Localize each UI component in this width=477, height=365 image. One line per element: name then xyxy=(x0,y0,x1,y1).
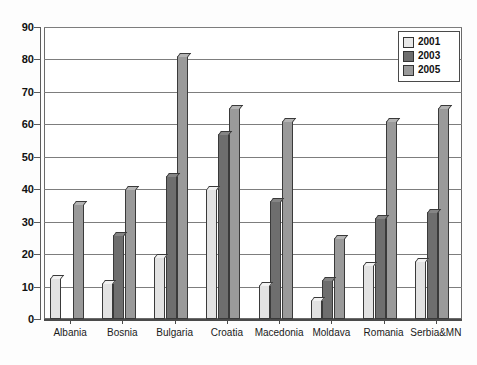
bar xyxy=(282,121,293,319)
y-axis-tick-label: 90 xyxy=(0,21,34,33)
bar xyxy=(415,261,426,319)
bar xyxy=(311,300,322,319)
y-axis-tick xyxy=(34,157,41,158)
bar xyxy=(229,108,240,319)
x-axis-tick-label: Romania xyxy=(358,328,410,338)
bar xyxy=(427,212,438,319)
x-axis-tick xyxy=(122,319,123,324)
legend-swatch-2005 xyxy=(403,65,414,76)
legend-item: 2005 xyxy=(403,63,455,77)
y-axis-tick-label: 0 xyxy=(0,313,34,325)
x-axis-tick xyxy=(436,319,437,324)
y-axis-tick-label: 50 xyxy=(0,151,34,163)
y-axis-tick xyxy=(34,27,41,28)
bar xyxy=(259,285,270,319)
bar xyxy=(363,265,374,319)
legend-item: 2001 xyxy=(403,35,455,49)
legend-label-2003: 2003 xyxy=(418,51,440,61)
x-axis-tick-label: Bosnia xyxy=(96,328,148,338)
bar xyxy=(166,176,177,319)
bar xyxy=(386,121,397,319)
y-axis-tick-label: 70 xyxy=(0,86,34,98)
x-axis-tick xyxy=(70,319,71,324)
bar xyxy=(334,238,345,319)
bar xyxy=(218,134,229,319)
legend-swatch-2003 xyxy=(403,51,414,62)
bar xyxy=(73,204,84,319)
x-axis-tick xyxy=(175,319,176,324)
y-axis-tick-label: 30 xyxy=(0,216,34,228)
y-axis-tick xyxy=(34,124,41,125)
bar xyxy=(102,283,113,319)
bar xyxy=(322,280,333,319)
bar xyxy=(125,189,136,319)
legend-label-2005: 2005 xyxy=(418,65,440,75)
x-axis-tick-label: Albania xyxy=(44,328,96,338)
x-axis-tick-label: Serbia&MN xyxy=(410,328,462,338)
y-axis-tick-label: 10 xyxy=(0,281,34,293)
chart-legend: 2001 2003 2005 xyxy=(398,31,460,82)
legend-item: 2003 xyxy=(403,49,455,63)
bar-top-face xyxy=(438,105,452,109)
x-axis-tick-label: Croatia xyxy=(201,328,253,338)
bar-chart: 0102030405060708090 AlbaniaBosniaBulgari… xyxy=(0,0,477,365)
bar xyxy=(177,56,188,319)
x-axis-tick-label: Moldava xyxy=(305,328,357,338)
x-axis-tick xyxy=(279,319,280,324)
y-axis-tick xyxy=(34,92,41,93)
x-axis-tick xyxy=(331,319,332,324)
bar xyxy=(113,235,124,319)
y-axis-line xyxy=(40,27,41,319)
x-axis-tick-label: Macedonia xyxy=(253,328,305,338)
y-axis-tick xyxy=(34,287,41,288)
x-axis-tick-label: Bulgaria xyxy=(149,328,201,338)
bar xyxy=(206,189,217,319)
y-axis-tick xyxy=(34,189,41,190)
bar xyxy=(50,278,61,319)
y-axis-tick xyxy=(34,319,41,320)
y-axis-tick-label: 80 xyxy=(0,53,34,65)
x-axis-tick xyxy=(227,319,228,324)
y-axis-tick xyxy=(34,254,41,255)
legend-label-2001: 2001 xyxy=(418,37,440,47)
bar xyxy=(438,108,449,319)
y-axis-tick xyxy=(34,222,41,223)
y-axis-tick xyxy=(34,59,41,60)
legend-swatch-2001 xyxy=(403,37,414,48)
bar xyxy=(270,201,281,319)
bar xyxy=(154,257,165,319)
x-axis-line xyxy=(44,319,462,321)
y-axis-tick-label: 60 xyxy=(0,118,34,130)
y-axis-tick-label: 20 xyxy=(0,248,34,260)
x-axis-tick xyxy=(384,319,385,324)
y-axis-tick-label: 40 xyxy=(0,183,34,195)
bar xyxy=(375,218,386,319)
